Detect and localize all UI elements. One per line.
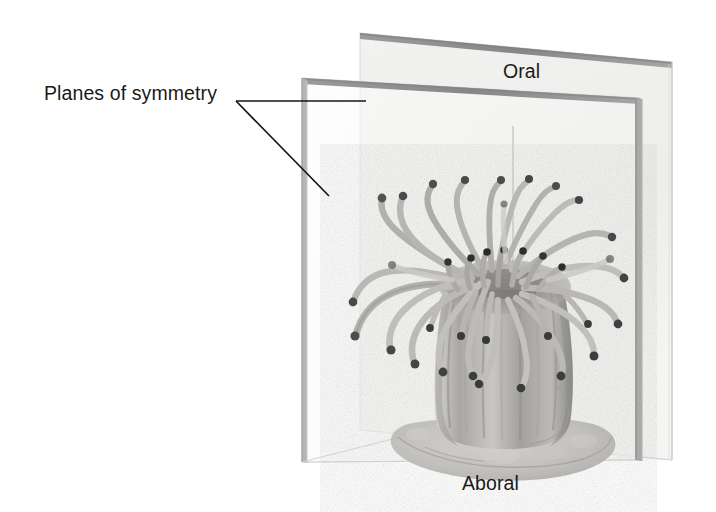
tentacle-tip [584,320,592,328]
tentacle-tip [429,180,437,188]
front-plane-right-edge-overlay [636,98,642,461]
tentacle-tip [539,252,547,260]
tentacle-tip [349,298,358,307]
tentacle-tip [620,274,629,283]
tentacle-tip [426,324,434,332]
tentacle-tip [388,261,396,269]
tentacle-tip [483,248,491,256]
tentacle-tip [544,332,552,340]
tentacle-tip [590,352,599,361]
tentacle-tip [552,182,560,190]
oral-label: Oral [503,62,540,82]
tentacle-tip [399,192,408,201]
tentacle-tip [457,332,465,340]
tentacle-tip [519,247,527,255]
tentacle-tip [614,320,623,329]
tentacle-tip [461,176,469,184]
tentacle-tip [469,372,478,381]
aboral-label: Aboral [462,474,519,494]
tentacle-tip [482,336,490,344]
tentacle-tip [411,360,420,369]
symmetry-planes-illustration [0,0,716,512]
tentacle-tip [608,233,616,241]
tentacle-tip [439,368,448,377]
tentacle-tip [386,345,395,354]
tentacle-tip [497,176,505,184]
tentacle-tip [467,254,475,262]
tentacle-tip [500,200,507,207]
figure-container: Planes of symmetry Oral Aboral [0,0,716,512]
front-plane-left-edge [302,78,307,463]
tentacle-tip [575,196,583,204]
planes-of-symmetry-label: Planes of symmetry [44,84,217,104]
tentacle-tip [378,194,387,203]
tentacle-tip [475,380,483,388]
tentacle-tip [350,331,359,340]
tentacle-tip [525,175,533,183]
tentacle-tip [557,372,566,381]
tentacle-tip [606,255,614,263]
tentacle-tip [517,384,526,393]
tentacle-tip [444,258,451,265]
tentacle-tip [558,263,565,270]
